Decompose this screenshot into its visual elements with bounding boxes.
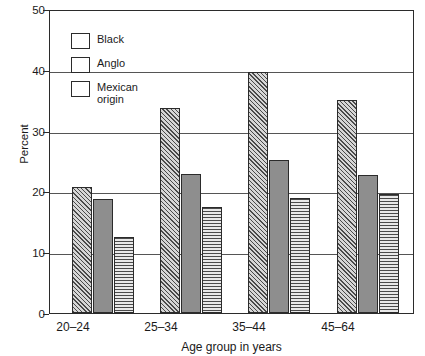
bar-anglo-35-44: [269, 160, 289, 313]
x-axis-title: Age group in years: [49, 340, 414, 354]
bar-black-45-64: [337, 100, 357, 313]
y-tick-label: 40: [0, 65, 45, 77]
legend-label: Black: [97, 34, 124, 46]
x-tick-label-45-64: 45–64: [303, 320, 373, 334]
y-tick-label: 0: [0, 308, 45, 320]
gridline-40: [50, 72, 413, 73]
gridline-30: [50, 133, 413, 134]
bar-black-20-24: [72, 187, 92, 314]
y-tick-label: 20: [0, 186, 45, 198]
bar-anglo-25-34: [181, 174, 201, 313]
bar-mexican-20-24: [114, 237, 134, 313]
bar-anglo-45-64: [358, 175, 378, 313]
legend-swatch-horizontal-hatch-icon: [71, 81, 90, 97]
legend-label-line1: Mexican: [97, 81, 138, 93]
y-tick-label: 10: [0, 247, 45, 259]
plot-area: Black Anglo Mexicanorigin: [49, 10, 414, 314]
legend-label-multiline: Mexicanorigin: [97, 82, 138, 105]
x-tick-label-20-24: 20–24: [38, 320, 108, 334]
bar-black-35-44: [248, 72, 268, 313]
legend-label: Anglo: [97, 58, 125, 70]
bar-mexican-35-44: [290, 198, 310, 314]
bar-anglo-20-24: [93, 199, 113, 313]
legend-label-line2: origin: [97, 94, 138, 106]
y-tick-mark: [43, 314, 49, 315]
bar-mexican-45-64: [379, 194, 399, 313]
y-axis-title: Percent: [18, 114, 30, 174]
bar-black-25-34: [160, 108, 180, 313]
bar-mexican-25-34: [202, 207, 222, 313]
y-tick-label: 50: [0, 4, 45, 16]
bar-chart-figure: 50 40 30 20 10 0 Percent: [0, 0, 425, 356]
x-tick-label-25-34: 25–34: [126, 320, 196, 334]
legend-swatch-solid-gray-icon: [71, 57, 90, 73]
legend-swatch-diagonal-hatch-icon: [71, 33, 90, 49]
x-tick-label-35-44: 35–44: [214, 320, 284, 334]
